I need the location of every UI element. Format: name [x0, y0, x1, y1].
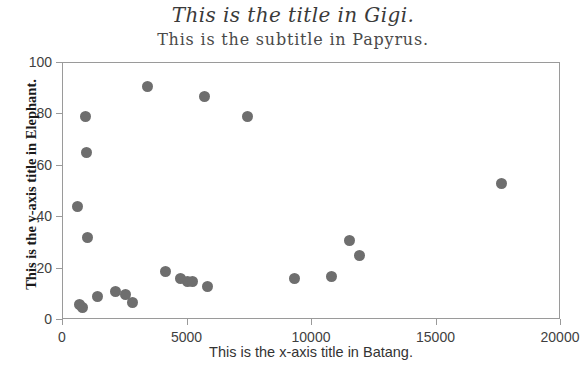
data-point [326, 271, 337, 282]
y-tick-mark [56, 319, 62, 320]
x-tick-label: 15000 [416, 329, 455, 345]
data-point [142, 81, 153, 92]
chart-title: This is the title in Gigi. [0, 3, 586, 27]
x-axis-title: This is the x-axis title in Batang. [62, 344, 560, 360]
y-tick-mark [56, 165, 62, 166]
scatter-chart-figure: This is the title in Gigi. This is the s… [0, 0, 586, 370]
y-tick-mark [56, 113, 62, 114]
data-point [242, 111, 253, 122]
data-point [72, 201, 83, 212]
chart-subtitle: This is the subtitle in Papyrus. [0, 30, 586, 49]
data-point [354, 250, 365, 261]
x-tick-mark [560, 319, 561, 325]
data-point [77, 302, 88, 313]
data-point [160, 266, 171, 277]
data-point [82, 232, 93, 243]
data-points-layer [63, 63, 559, 318]
data-point [202, 281, 213, 292]
data-point [199, 91, 210, 102]
data-point [289, 273, 300, 284]
x-tick-label: 10000 [292, 329, 331, 345]
data-point [344, 235, 355, 246]
data-point [496, 178, 507, 189]
data-point [80, 111, 91, 122]
x-tick-mark [436, 319, 437, 325]
data-point [127, 297, 138, 308]
data-point [92, 291, 103, 302]
x-tick-mark [311, 319, 312, 325]
x-tick-label: 20000 [541, 329, 580, 345]
y-tick-mark [56, 268, 62, 269]
y-tick-mark [56, 62, 62, 63]
x-tick-mark [62, 319, 63, 325]
y-tick-mark [56, 216, 62, 217]
x-tick-label: 5000 [171, 329, 202, 345]
x-tick-mark [187, 319, 188, 325]
plot-area [62, 62, 560, 319]
y-axis-title: This is the y-axis title in Elephant. [23, 55, 40, 315]
data-point [187, 276, 198, 287]
x-tick-label: 0 [58, 329, 66, 345]
data-point [81, 147, 92, 158]
